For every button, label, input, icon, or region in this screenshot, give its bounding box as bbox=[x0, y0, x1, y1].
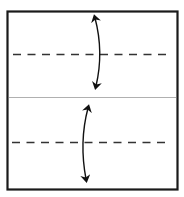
fold-diagram bbox=[0, 0, 184, 197]
paper-square bbox=[8, 12, 178, 190]
